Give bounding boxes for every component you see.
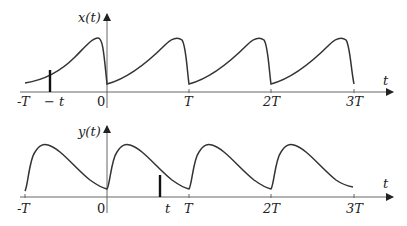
top-tick-label-3T: 3T	[346, 94, 364, 109]
bottom-tick-label-minus-T: -T	[17, 201, 31, 216]
bottom-tick-label-3T: 3T	[346, 201, 364, 216]
bottom-curve	[25, 145, 353, 191]
top-curve	[25, 38, 354, 84]
bottom-tick-label-0: 0	[97, 201, 105, 216]
top-tick-label-minus-T: -T	[17, 94, 31, 109]
bottom-tick-label-T: T	[184, 201, 194, 216]
top-tick-label-minus-t: − t	[44, 94, 65, 109]
bottom-tick-label-t: t	[165, 201, 171, 216]
top-plot: x(t) t -T − t 0 T 2T 3T	[17, 10, 393, 109]
diagram: x(t) t -T − t 0 T 2T 3T y(t) t -T 0 t T …	[0, 0, 407, 226]
bottom-tick-label-2T: 2T	[262, 201, 281, 216]
top-tick-label-0: 0	[97, 94, 105, 109]
bottom-plot: y(t) t -T 0 t T 2T 3T	[17, 124, 393, 216]
top-tick-label-T: T	[184, 94, 194, 109]
top-tick-label-2T: 2T	[262, 94, 281, 109]
top-ylabel: x(t)	[78, 10, 101, 25]
top-xlabel: t	[383, 73, 389, 88]
bottom-ylabel: y(t)	[77, 124, 101, 139]
bottom-xlabel: t	[383, 176, 389, 191]
